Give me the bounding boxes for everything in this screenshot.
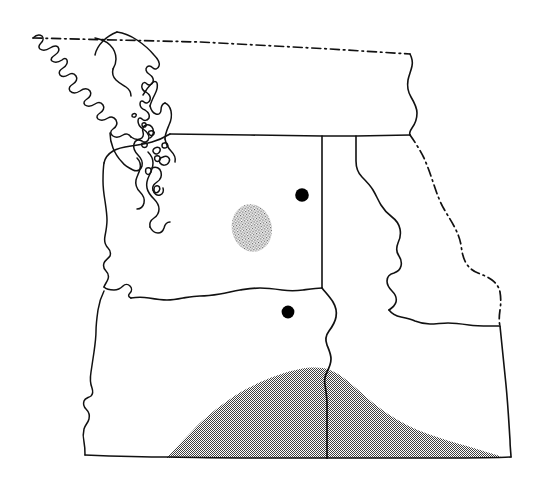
locality-marker-2 (282, 306, 295, 319)
map-canvas (0, 0, 544, 487)
locality-marker-1 (295, 188, 309, 202)
map-figure (0, 0, 544, 487)
